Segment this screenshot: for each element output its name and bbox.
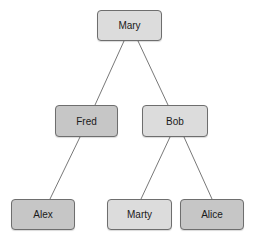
edge-bob-marty (141, 137, 170, 199)
edge-bob-alice (184, 137, 212, 199)
node-label: Fred (76, 116, 97, 127)
node-label: Bob (166, 116, 184, 127)
edge-fred-alex (50, 137, 80, 199)
node-bob[interactable]: Bob (142, 105, 208, 137)
node-label: Marty (127, 209, 152, 220)
node-label: Alice (201, 209, 223, 220)
node-fred[interactable]: Fred (55, 105, 118, 137)
node-marty[interactable]: Marty (107, 199, 172, 230)
edge-mary-bob (138, 41, 168, 105)
node-alex[interactable]: Alex (11, 199, 75, 230)
node-alice[interactable]: Alice (180, 199, 244, 230)
edge-mary-fred (95, 41, 124, 105)
node-mary[interactable]: Mary (97, 10, 162, 41)
node-label: Mary (118, 20, 140, 31)
node-label: Alex (33, 209, 52, 220)
